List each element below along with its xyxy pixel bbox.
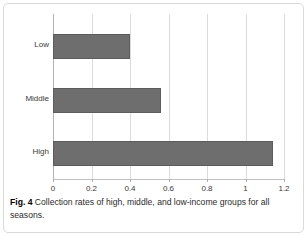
- xtick-label-0.2: 0.2: [80, 184, 104, 193]
- bar-middle: [53, 88, 161, 113]
- figure-caption: Fig. 4 Collection rates of high, middle,…: [10, 196, 295, 222]
- gridline-1.2: [284, 14, 285, 179]
- tickmark-1.2: [284, 179, 285, 182]
- bar-high: [53, 141, 273, 166]
- xtick-label-0: 0: [41, 184, 65, 193]
- category-label-middle: Middle: [4, 94, 49, 103]
- xtick-label-0.8: 0.8: [195, 184, 219, 193]
- bar-chart: Low Middle High 0 0.2 0.4 0.6 0.8 1 1.2: [4, 4, 305, 194]
- tickmark-0: [53, 179, 54, 182]
- tickmark-0.2: [92, 179, 93, 182]
- category-label-high: High: [4, 147, 49, 156]
- xtick-label-0.4: 0.4: [118, 184, 142, 193]
- bar-low: [53, 34, 130, 59]
- xtick-label-1.2: 1.2: [272, 184, 296, 193]
- tickmark-0.8: [207, 179, 208, 182]
- tickmark-0.4: [130, 179, 131, 182]
- plot-area: [53, 14, 284, 179]
- tickmark-0.6: [169, 179, 170, 182]
- xtick-label-1: 1: [234, 184, 258, 193]
- figure-caption-text: Collection rates of high, middle, and lo…: [10, 197, 269, 220]
- xtick-label-0.6: 0.6: [157, 184, 181, 193]
- tickmark-1: [246, 179, 247, 182]
- category-label-low: Low: [4, 40, 49, 49]
- figure-container: Low Middle High 0 0.2 0.4 0.6 0.8 1 1.2 …: [3, 3, 304, 233]
- figure-number: Fig. 4: [10, 197, 32, 207]
